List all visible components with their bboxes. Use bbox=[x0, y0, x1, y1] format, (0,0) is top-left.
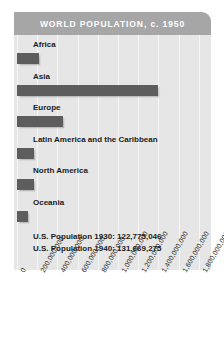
bar-label: Africa bbox=[33, 40, 56, 49]
chart-title: WORLD POPULATION, c. 1950 bbox=[40, 19, 185, 29]
chart-header: WORLD POPULATION, c. 1950 bbox=[14, 12, 211, 35]
bar-label: Europe bbox=[33, 103, 61, 112]
x-axis: 0200,000,000400,000,000600,000,000800,00… bbox=[14, 270, 224, 343]
bar-label: Latin America and the Caribbean bbox=[33, 135, 158, 144]
gridline bbox=[199, 35, 200, 270]
bar-label: North America bbox=[33, 166, 88, 175]
bar bbox=[17, 85, 158, 96]
population-chart-figure: WORLD POPULATION, c. 1950 AfricaAsiaEuro… bbox=[0, 0, 224, 343]
bar bbox=[17, 53, 39, 64]
bar-label: Asia bbox=[33, 72, 50, 81]
bar bbox=[17, 148, 34, 159]
bar bbox=[17, 211, 28, 222]
bar-label: Oceania bbox=[33, 198, 64, 207]
bar bbox=[17, 116, 63, 127]
bar bbox=[17, 179, 34, 190]
